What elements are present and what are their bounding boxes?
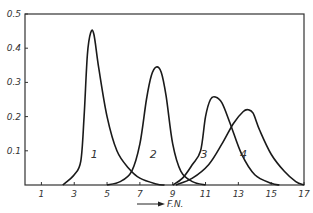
y-tick-label: 0.2 — [7, 112, 22, 122]
x-axis-title-group: F.N. — [137, 199, 183, 209]
y-tick-label: 0.3 — [7, 77, 22, 87]
x-tick-label: 17 — [298, 189, 310, 199]
curve-label-1: 1 — [91, 148, 98, 161]
curves — [63, 30, 304, 185]
arrow-head-icon — [158, 202, 165, 207]
x-tick-label: 9 — [170, 189, 176, 199]
x-tick-label: 5 — [104, 189, 110, 199]
x-tick-label: 3 — [71, 189, 77, 199]
curve-3 — [173, 97, 280, 185]
curve-label-3: 3 — [201, 148, 208, 161]
x-axis-title: F.N. — [167, 199, 183, 209]
y-tick-label: 0.1 — [7, 146, 21, 156]
curve-1 — [63, 30, 165, 185]
y-tick-label: 0.4 — [7, 43, 22, 53]
chart: 0.10.20.30.40.5 1357911131517 1234 F.N. — [0, 0, 313, 213]
x-tick-label: 7 — [137, 189, 143, 199]
curve-label-4: 4 — [240, 148, 247, 161]
x-tick-label: 1 — [39, 189, 45, 199]
curve-label-2: 2 — [150, 148, 157, 161]
curve-labels: 1234 — [91, 148, 247, 161]
x-tick-label: 15 — [265, 189, 277, 199]
x-tick-label: 13 — [233, 189, 245, 199]
y-tick-label: 0.5 — [7, 9, 22, 19]
plot-border — [25, 14, 304, 185]
plot-frame — [25, 14, 304, 185]
x-tick-label: 11 — [200, 189, 211, 199]
